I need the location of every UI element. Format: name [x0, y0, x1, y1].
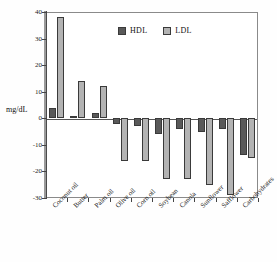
y-tick-label: 0 — [0, 115, 46, 122]
legend-label-ldl: LDL — [175, 26, 191, 35]
bar-hdl-5 — [155, 118, 162, 134]
y-axis-title: mg/dL — [6, 105, 27, 114]
bar-ldl-3 — [121, 118, 128, 161]
legend-swatch-hdl — [118, 27, 126, 35]
y-tick-mark — [42, 145, 47, 146]
y-tick-mark — [42, 171, 47, 172]
bar-ldl-2 — [100, 86, 107, 118]
bar-ldl-1 — [78, 81, 85, 118]
bar-hdl-4 — [134, 118, 141, 126]
legend-label-hdl: HDL — [130, 26, 147, 35]
y-tick-mark — [42, 65, 47, 66]
x-tick-mark — [131, 198, 132, 202]
x-tick-mark — [237, 198, 238, 202]
bar-ldl-0 — [57, 17, 64, 118]
bar-hdl-8 — [219, 118, 226, 129]
x-tick-mark — [258, 198, 259, 202]
legend-item-ldl: LDL — [163, 26, 191, 35]
y-tick-mark — [42, 39, 47, 40]
y-tick-mark — [42, 198, 47, 199]
bar-hdl-0 — [49, 108, 56, 119]
y-tick-label: -20 — [0, 168, 46, 175]
bar-ldl-9 — [248, 118, 255, 158]
legend-swatch-ldl — [163, 27, 171, 35]
bar-hdl-1 — [70, 116, 77, 119]
x-tick-mark — [152, 198, 153, 202]
bar-ldl-5 — [163, 118, 170, 179]
legend-item-hdl: HDL — [118, 26, 147, 35]
y-tick-label: 20 — [0, 62, 46, 69]
bar-ldl-8 — [227, 118, 234, 195]
bar-hdl-3 — [113, 118, 120, 123]
bar-hdl-2 — [92, 113, 99, 118]
bar-hdl-9 — [240, 118, 247, 155]
y-tick-mark — [42, 12, 47, 13]
bar-ldl-6 — [184, 118, 191, 179]
y-tick-mark — [42, 92, 47, 93]
bar-hdl-7 — [198, 118, 205, 131]
x-tick-mark — [216, 198, 217, 202]
y-tick-label: 30 — [0, 35, 46, 42]
y-tick-mark — [42, 118, 47, 119]
bar-ldl-4 — [142, 118, 149, 161]
bar-hdl-6 — [176, 118, 183, 129]
x-tick-mark — [110, 198, 111, 202]
legend: HDL LDL — [118, 26, 192, 35]
y-tick-label: 40 — [0, 9, 46, 16]
y-tick-label: 10 — [0, 88, 46, 95]
y-tick-label: -10 — [0, 141, 46, 148]
y-tick-label: -30 — [0, 195, 46, 202]
figure: mg/dL HDL LDL 403020100-10-20-30Coconut … — [0, 0, 277, 262]
bar-ldl-7 — [206, 118, 213, 184]
